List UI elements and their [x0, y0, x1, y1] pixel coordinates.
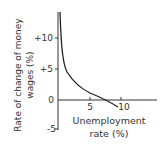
x-tick-label: 5: [87, 102, 93, 112]
y-tick-label: -5: [47, 124, 56, 134]
y-axis-label: Rate of change of money: [13, 18, 23, 132]
y-axis-label: wages (%): [25, 51, 35, 98]
x-axis-label: rate (%): [90, 128, 129, 139]
phillips-curve-chart: +10 +5 0 -5 5 10 Unemployment rate (%) R…: [0, 0, 168, 149]
y-tick-label: +10: [34, 33, 53, 43]
y-tick-label: +5: [40, 64, 53, 74]
x-tick-label: 10: [118, 102, 130, 112]
x-axis-label: Unemployment: [72, 115, 145, 126]
y-tick-label: 0: [48, 95, 54, 105]
phillips-curve: [60, 12, 118, 107]
